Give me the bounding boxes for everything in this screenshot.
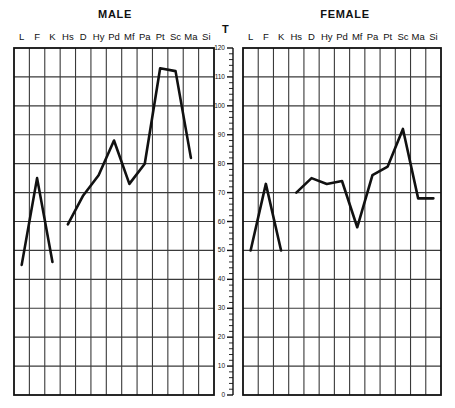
t-tick-50: 50 xyxy=(203,246,225,253)
female-scale-label-mf: Mf xyxy=(352,31,363,42)
t-tick-10: 10 xyxy=(203,362,225,369)
t-tick-0: 0 xyxy=(203,391,225,398)
female-profile-line xyxy=(251,129,434,250)
t-tick-60: 60 xyxy=(203,218,225,225)
female-scale-label-f: F xyxy=(263,31,269,42)
female-scale-label-row: LFKHsDHyPdMfPaPtScMaSi xyxy=(0,31,455,45)
female-scale-label-pa: Pa xyxy=(367,31,379,42)
female-scale-label-pd: Pd xyxy=(336,31,348,42)
t-tick-80: 80 xyxy=(203,160,225,167)
mmpi-profile-figure: MALE FEMALE T LFKHsDHyPdMfPaPtScMaSi LFK… xyxy=(0,0,455,408)
t-tick-100: 100 xyxy=(203,102,225,109)
t-tick-70: 70 xyxy=(203,189,225,196)
male-panel-title: MALE xyxy=(60,8,170,20)
female-scale-label-l: L xyxy=(248,31,253,42)
t-tick-30: 30 xyxy=(203,304,225,311)
female-scale-label-si: Si xyxy=(429,31,437,42)
female-profile-segment-0 xyxy=(251,184,281,251)
t-tick-20: 20 xyxy=(203,333,225,340)
female-scale-label-sc: Sc xyxy=(397,31,408,42)
female-scale-label-d: D xyxy=(308,31,315,42)
female-scale-label-hy: Hy xyxy=(321,31,333,42)
male-grid xyxy=(14,48,214,395)
t-tick-120: 120 xyxy=(203,44,225,51)
t-tick-110: 110 xyxy=(203,73,225,80)
chart-drawing-layer xyxy=(0,0,455,408)
female-grid xyxy=(243,48,441,395)
t-tick-40: 40 xyxy=(203,275,225,282)
male-profile-segment-1 xyxy=(68,68,191,224)
t-tick-90: 90 xyxy=(203,131,225,138)
t-score-axis-ruler xyxy=(227,48,233,395)
female-profile-segment-1 xyxy=(296,129,433,227)
female-panel-title: FEMALE xyxy=(290,8,400,20)
male-profile-segment-0 xyxy=(22,178,53,265)
male-profile-line xyxy=(22,68,191,265)
female-scale-label-k: K xyxy=(278,31,284,42)
female-scale-label-hs: Hs xyxy=(290,31,302,42)
female-scale-label-ma: Ma xyxy=(412,31,425,42)
female-scale-label-pt: Pt xyxy=(383,31,392,42)
